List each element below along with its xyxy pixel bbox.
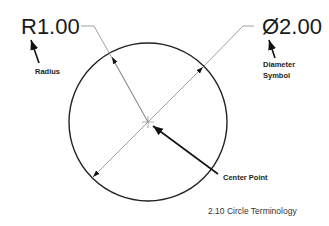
diameter-label-line2: Symbol — [263, 71, 290, 80]
diameter-label-line1: Diameter — [263, 60, 295, 69]
center-point-arrow — [153, 126, 218, 174]
radius-dimension-line — [112, 57, 148, 122]
diameter-dimension-line-upper — [148, 67, 203, 122]
circle-terminology-diagram: R1.00 Ø2.00 Radius Diameter Symbol Cente… — [0, 0, 329, 226]
diameter-leader — [204, 26, 254, 66]
diameter-dimension-line-lower — [93, 122, 148, 177]
center-point-label: Center Point — [223, 173, 268, 182]
radius-arrow — [31, 40, 39, 63]
figure-caption: 2.10 Circle Terminology — [208, 206, 297, 216]
diameter-dimension-text: Ø2.00 — [262, 14, 322, 39]
radius-dimension-text: R1.00 — [21, 14, 80, 39]
radius-label: Radius — [35, 67, 60, 76]
diameter-symbol-arrow — [269, 40, 275, 58]
radius-leader — [81, 26, 148, 122]
